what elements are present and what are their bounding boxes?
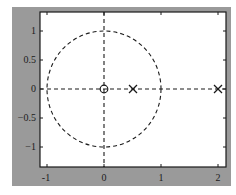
x-tick-label: -1: [36, 173, 56, 183]
y-tick-label: −1: [6, 142, 36, 152]
x-tick-label: 2: [208, 173, 228, 183]
x-tick-label: 1: [151, 173, 171, 183]
y-tick-label: 0.5: [6, 55, 36, 65]
y-tick-label: 1: [6, 26, 36, 36]
y-tick-label: 0: [6, 84, 36, 94]
x-tick-label: 0: [94, 173, 114, 183]
y-tick-label: −0.5: [6, 113, 36, 123]
